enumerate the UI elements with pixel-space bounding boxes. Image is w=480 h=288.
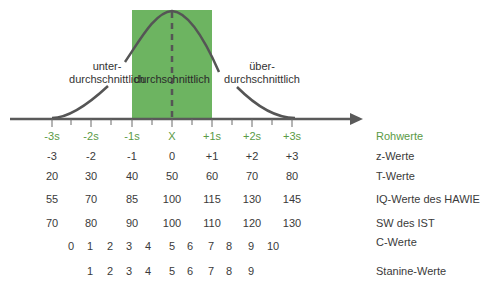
row-label: SW des IST (376, 217, 435, 230)
row-label: IQ-Werte des HAWIE (376, 193, 480, 206)
row-label: C-Werte (376, 236, 417, 249)
cell: +2 (246, 150, 259, 163)
axis-arrow-icon (350, 113, 363, 125)
cell: -1s (124, 130, 139, 143)
cell: 85 (126, 193, 138, 206)
cell: 60 (206, 170, 218, 183)
cell: +1 (206, 150, 219, 163)
cell: 8 (226, 265, 232, 278)
cell: 6 (187, 265, 193, 278)
row-label: T-Werte (376, 170, 415, 183)
cell: -1 (127, 150, 137, 163)
cell: 4 (145, 240, 151, 253)
cell: +1s (203, 130, 221, 143)
above-average-label: über- durchschnittlich (212, 60, 312, 86)
cell: 70 (46, 217, 58, 230)
cell: -3s (44, 130, 59, 143)
cell: 2 (107, 240, 113, 253)
cell: 145 (283, 193, 301, 206)
cell: 5 (169, 240, 175, 253)
cell: 3 (126, 240, 132, 253)
curve-right-tail (237, 87, 295, 118)
cell: 7 (208, 240, 214, 253)
cell: 55 (46, 193, 58, 206)
cell: X (168, 130, 175, 143)
cell: 3 (126, 265, 132, 278)
cell: 6 (187, 240, 193, 253)
cell: 100 (163, 217, 181, 230)
cell: 4 (145, 265, 151, 278)
cell: 115 (203, 193, 221, 206)
row-label: z-Werte (376, 150, 414, 163)
cell: -2s (83, 130, 98, 143)
cell: 1 (87, 265, 93, 278)
cell: -2 (86, 150, 96, 163)
cell: 100 (163, 193, 181, 206)
cell: 70 (246, 170, 258, 183)
cell: 40 (126, 170, 138, 183)
cell: -3 (47, 150, 57, 163)
row-label: Stanine-Werte (376, 265, 446, 278)
cell: 90 (126, 217, 138, 230)
cell: 5 (169, 265, 175, 278)
cell: 0 (68, 240, 74, 253)
cell: +3s (283, 130, 301, 143)
cell: 7 (208, 265, 214, 278)
cell: 9 (248, 240, 254, 253)
cell: +2s (243, 130, 261, 143)
cell: 1 (87, 240, 93, 253)
cell: 9 (248, 265, 254, 278)
cell: 70 (85, 193, 97, 206)
cell: 20 (46, 170, 58, 183)
cell: 80 (85, 217, 97, 230)
cell: 8 (226, 240, 232, 253)
cell: 130 (283, 217, 301, 230)
cell: 80 (286, 170, 298, 183)
cell: 2 (107, 265, 113, 278)
cell: 50 (166, 170, 178, 183)
cell: 10 (267, 240, 279, 253)
row-label: Rohwerte (376, 130, 423, 143)
cell: +3 (286, 150, 299, 163)
cell: 30 (85, 170, 97, 183)
cell: 120 (243, 217, 261, 230)
cell: 0 (169, 150, 175, 163)
cell: 130 (243, 193, 261, 206)
average-label: durchschnittlich (130, 73, 214, 86)
curve-left-tail (52, 86, 108, 118)
cell: 110 (203, 217, 221, 230)
